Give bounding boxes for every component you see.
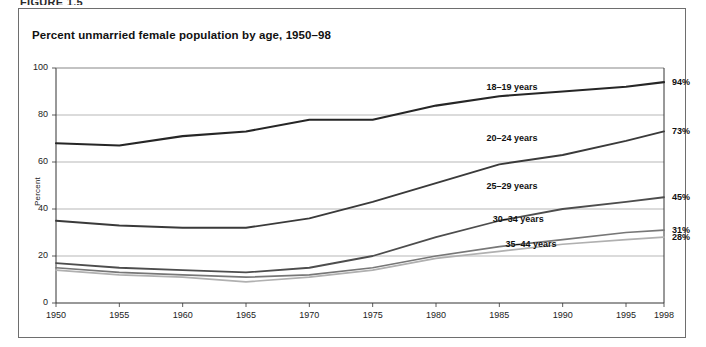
running-header: FIGURE 1.5 [20,0,83,5]
figure-title: Percent unmarried female population by a… [32,29,331,41]
figure-box: Percent unmarried female population by a… [18,8,686,338]
